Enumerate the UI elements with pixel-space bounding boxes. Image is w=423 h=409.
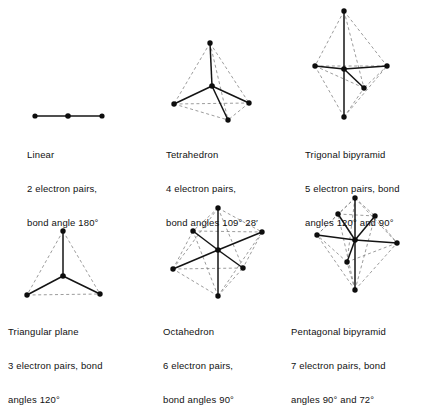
- atom-vertices: [312, 8, 389, 119]
- diagram-tetrahedron: [171, 40, 251, 122]
- atom-vertex: [215, 293, 220, 298]
- caption-line-angles: angles 120° and 90°: [305, 217, 400, 228]
- atom-vertex: [240, 265, 245, 270]
- caption-line-name: Trigonal bipyramid: [305, 149, 400, 160]
- caption-line-angles: bond angle 180°: [27, 217, 99, 228]
- caption-triangular-plane: Triangular plane 3 electron pairs, bond …: [8, 303, 103, 409]
- caption-line-pairs: 4 electron pairs,: [166, 183, 258, 194]
- atom-vertex: [312, 63, 317, 68]
- atom-vertex: [344, 259, 349, 264]
- caption-line-angles: bond angles 90°: [163, 394, 234, 405]
- atom-vertex: [352, 287, 357, 292]
- outline-edges: [315, 11, 387, 117]
- caption-line-name: Octahedron: [163, 326, 234, 337]
- caption-line-name: Pentagonal bipyramid: [291, 326, 386, 337]
- caption-line-pairs: 2 electron pairs,: [27, 183, 99, 194]
- atom-vertex: [384, 63, 389, 68]
- atom-vertex: [171, 101, 176, 106]
- caption-trigonal-bipyramid: Trigonal bipyramid 5 electron pairs, bon…: [305, 126, 400, 251]
- atom-vertex: [207, 40, 212, 45]
- atom-vertex: [24, 292, 29, 297]
- atom-vertex: [225, 117, 230, 122]
- caption-line-name: Tetrahedron: [166, 149, 258, 160]
- atom-vertex: [341, 114, 346, 119]
- atom-vertex: [341, 8, 346, 13]
- caption-line-angles: angles 120°: [8, 394, 103, 405]
- atom-vertex: [32, 113, 37, 118]
- atom-center: [341, 66, 347, 72]
- diagram-trigonal-bipyramid: [312, 8, 389, 119]
- atom-center: [65, 113, 71, 119]
- caption-line-pairs: 7 electron pairs, bond: [291, 360, 386, 371]
- caption-tetrahedron: Tetrahedron 4 electron pairs, bond angle…: [166, 126, 258, 251]
- caption-line-name: Linear: [27, 149, 99, 160]
- atom-vertex: [361, 85, 366, 90]
- atom-vertex: [97, 291, 102, 296]
- caption-line-name: Triangular plane: [8, 326, 103, 337]
- caption-line-pairs: 3 electron pairs, bond: [8, 360, 103, 371]
- caption-line-pairs: 6 electron pairs,: [163, 360, 234, 371]
- caption-pentagonal-bipyramid: Pentagonal bipyramid 7 electron pairs, b…: [291, 303, 386, 409]
- bond-lines: [315, 11, 387, 117]
- caption-octahedron: Octahedron 6 electron pairs, bond angles…: [163, 303, 234, 409]
- caption-line-angles: angles 90° and 72°: [291, 394, 386, 405]
- atom-vertex: [246, 100, 251, 105]
- atom-vertex: [170, 266, 175, 271]
- caption-line-pairs: 5 electron pairs, bond: [305, 183, 400, 194]
- atom-center: [209, 83, 215, 89]
- caption-line-angles: bond angles 109° 28′: [166, 217, 258, 228]
- atom-center: [60, 273, 66, 279]
- bond-lines: [174, 43, 249, 120]
- diagram-linear: [32, 113, 104, 119]
- caption-linear: Linear 2 electron pairs, bond angle 180°: [27, 126, 99, 251]
- atom-vertex: [99, 113, 104, 118]
- atom-vertex: [259, 229, 264, 234]
